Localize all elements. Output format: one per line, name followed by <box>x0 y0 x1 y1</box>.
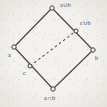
lattice-diagram-canvas <box>0 0 107 107</box>
label-node-b: b <box>95 55 98 61</box>
node-a <box>12 45 16 49</box>
node-a-union-b <box>50 6 54 10</box>
edge-a-to-a-union-b <box>14 8 52 47</box>
edge-a-intersect-b-to-b <box>53 50 93 89</box>
node-c <box>28 64 32 68</box>
edge-c-to-c-union-b <box>30 31 76 66</box>
label-node-c: c <box>23 70 26 76</box>
label-node-a-intersect-b: a∩b <box>44 95 55 101</box>
label-node-a-union-b: a∪b <box>60 2 71 8</box>
label-node-a: a <box>8 52 11 58</box>
node-a-intersect-b <box>51 87 55 91</box>
lattice-diagram-figure: a∪b c∪b a b c a∩b <box>0 0 107 107</box>
edge-a-union-b-to-b <box>52 8 93 50</box>
node-b <box>91 48 95 52</box>
label-node-c-union-b: c∪b <box>80 20 91 26</box>
node-c-union-b <box>74 29 78 33</box>
